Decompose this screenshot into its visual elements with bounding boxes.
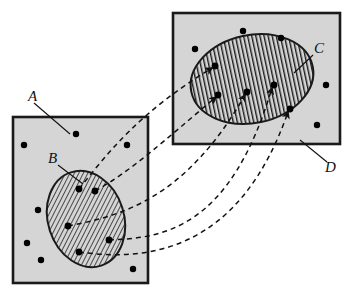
label-set-b: B [48,150,57,166]
point-b-1 [76,186,83,193]
label-set-a: A [27,88,38,104]
point-a-5 [24,240,30,246]
point-c-4 [271,82,278,89]
point-a-6 [38,257,44,263]
point-b-4 [106,237,113,244]
point-c-2 [215,92,222,99]
point-b-2 [92,188,99,195]
point-d-2 [278,35,284,41]
figure-canvas: A B C D [0,0,348,294]
point-c-1 [212,63,219,70]
label-set-c: C [314,40,325,56]
point-c-3 [244,89,251,96]
point-a-3 [124,142,130,148]
set-mapping-figure: A B C D [0,0,348,294]
point-a-2 [21,142,27,148]
label-set-d: D [324,159,336,175]
point-d-1 [240,28,246,34]
point-c-5 [287,106,294,113]
point-a-4 [35,207,41,213]
point-a-7 [130,266,136,272]
point-a-1 [73,131,79,137]
point-d-3 [192,46,198,52]
point-b-3 [65,223,72,230]
point-b-5 [76,249,83,256]
point-d-5 [314,122,320,128]
point-d-4 [323,82,329,88]
